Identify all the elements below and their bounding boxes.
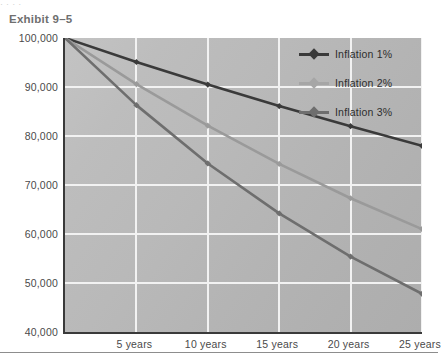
chart-legend: Inflation 1%Inflation 2%Inflation 3%	[299, 44, 431, 131]
legend-label: Inflation 3%	[335, 106, 392, 118]
y-axis-tick-label: 50,000	[2, 277, 58, 289]
y-axis-tick-label: 60,000	[2, 228, 58, 240]
x-axis-tick-label: 25 years	[399, 338, 441, 350]
top-clipped-text: · · · ·	[0, 0, 438, 9]
legend-diamond-marker-icon	[308, 106, 319, 117]
data-point-marker	[133, 59, 139, 65]
x-axis-tick-label: 20 years	[328, 338, 370, 350]
legend-item[interactable]: Inflation 3%	[299, 102, 431, 122]
legend-label: Inflation 1%	[335, 48, 392, 60]
legend-diamond-marker-icon	[308, 77, 319, 88]
y-axis-tick-labels: 100,00090,00080,00070,00060,00050,00040,…	[0, 38, 58, 332]
data-point-marker	[419, 143, 422, 149]
y-axis-tick-label: 90,000	[2, 81, 58, 93]
legend-diamond-marker-icon	[308, 48, 319, 59]
x-axis-tick-label: 10 years	[185, 338, 227, 350]
legend-swatch-icon	[299, 77, 329, 89]
legend-item[interactable]: Inflation 1%	[299, 44, 431, 64]
y-axis-tick-label: 40,000	[2, 326, 58, 338]
legend-swatch-icon	[299, 48, 329, 60]
legend-label: Inflation 2%	[335, 77, 392, 89]
data-point-marker	[205, 81, 211, 87]
page-title: Exhibit 9–5	[9, 13, 72, 25]
line-chart: 100,00090,00080,00070,00060,00050,00040,…	[0, 30, 438, 346]
x-axis-tick-label: 15 years	[256, 338, 298, 350]
x-axis-tick-labels: 5 years10 years15 years20 years25 years	[63, 338, 420, 356]
bottom-divider	[0, 352, 438, 353]
y-axis-tick-label: 100,000	[2, 32, 58, 44]
x-axis-tick-label: 5 years	[116, 338, 152, 350]
legend-swatch-icon	[299, 106, 329, 118]
y-axis-tick-label: 70,000	[2, 179, 58, 191]
y-axis-tick-label: 80,000	[2, 130, 58, 142]
legend-item[interactable]: Inflation 2%	[299, 73, 431, 93]
data-point-marker	[276, 103, 282, 109]
